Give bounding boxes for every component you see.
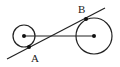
tangent-line (7, 8, 105, 59)
label-b: B (78, 3, 85, 15)
geometry-diagram: A B (0, 0, 120, 67)
point-a (27, 45, 31, 49)
label-a: A (31, 52, 39, 64)
diagram-canvas: A B (0, 0, 120, 67)
point-b (84, 17, 88, 21)
small-circle-center (22, 34, 26, 38)
large-circle-center (92, 34, 96, 38)
